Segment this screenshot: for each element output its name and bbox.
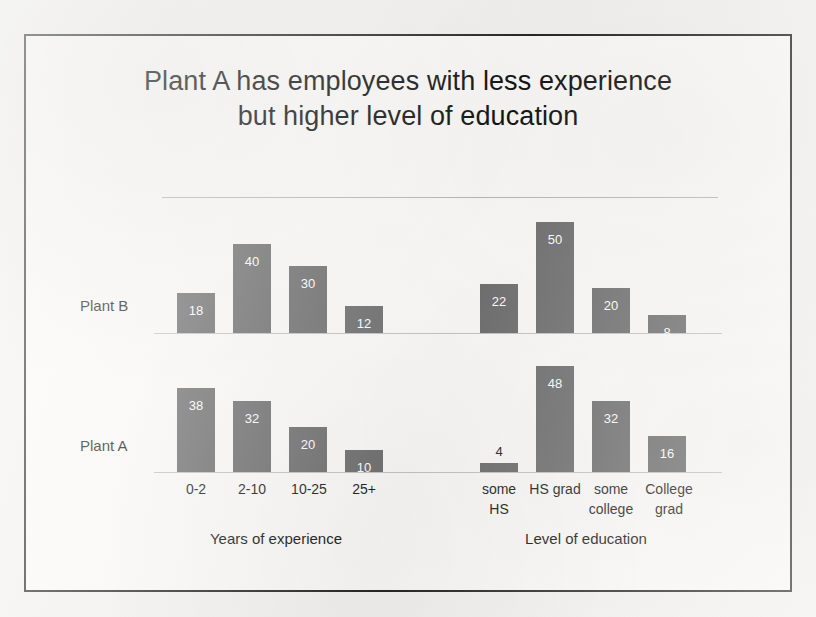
- slide-frame: Plant A has employees with less experien…: [24, 34, 792, 592]
- plant-b-exp-25plus-value: 12: [345, 316, 383, 331]
- cat-label-10-25: 10-25: [281, 479, 337, 499]
- plant-a-edu-college-grad-value: 16: [648, 446, 686, 461]
- chart-top-divider: [162, 197, 718, 198]
- cat-label-some-college: some college: [582, 479, 640, 520]
- cat-label-hs-grad: HS grad: [526, 479, 584, 499]
- plant-b-edu-college-grad-value: 8: [648, 325, 686, 340]
- plant-b-edu-hs-grad-value: 50: [536, 232, 574, 247]
- plant-b-exp-2-10-value: 40: [233, 254, 271, 269]
- axis-line-plant-a: [154, 472, 722, 473]
- cat-label-college-grad: College grad: [638, 479, 700, 520]
- cat-label-some-hs: some HS: [472, 479, 526, 520]
- axis-title-years-of-experience: Years of experience: [146, 530, 406, 547]
- plant-b-exp-0-2-value: 18: [177, 303, 215, 318]
- row-label-plant-a: Plant A: [80, 437, 128, 454]
- plant-a-edu-hs-grad-value: 48: [536, 376, 574, 391]
- plant-b-exp-10-25-value: 30: [289, 276, 327, 291]
- plant-b-edu-some-hs-value: 22: [480, 294, 518, 309]
- axis-title-level-of-education: Level of education: [446, 530, 726, 547]
- plant-a-exp-10-25-value: 20: [289, 437, 327, 452]
- row-label-plant-b: Plant B: [80, 297, 128, 314]
- plant-a-exp-2-10-value: 32: [233, 411, 271, 426]
- page-title: Plant A has employees with less experien…: [26, 64, 790, 134]
- plant-a-edu-some-college-value: 32: [592, 411, 630, 426]
- axis-line-plant-b: [154, 333, 722, 334]
- cat-label-25plus: 25+: [339, 479, 389, 499]
- plant-b-edu-some-college-value: 20: [592, 298, 630, 313]
- plant-a-exp-25plus-value: 10: [345, 460, 383, 475]
- cat-label-2-10: 2-10: [227, 479, 277, 499]
- plant-a-exp-0-2-value: 38: [177, 398, 215, 413]
- plant-a-edu-some-hs: [480, 463, 518, 472]
- cat-label-0-2: 0-2: [171, 479, 221, 499]
- plant-a-edu-some-hs-value: 4: [480, 444, 518, 459]
